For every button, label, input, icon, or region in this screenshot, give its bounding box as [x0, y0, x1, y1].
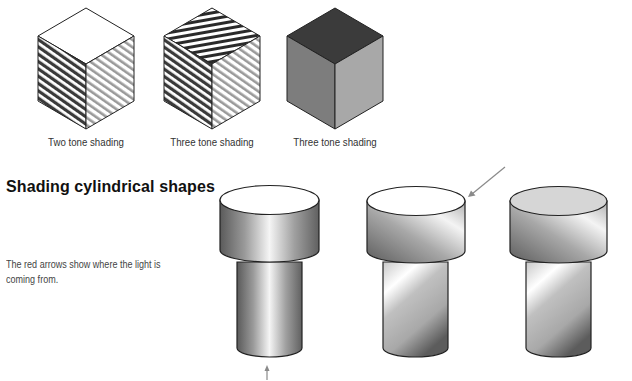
cube-three-tone-solid	[287, 8, 383, 129]
caption-three-tone-hatched: Three tone shading	[150, 136, 273, 148]
section-description: The red arrows show where the light is c…	[6, 257, 178, 287]
caption-two-tone: Two tone shading	[24, 136, 147, 148]
cylinder-top-right-light	[367, 187, 465, 358]
cylinder-shaft	[383, 262, 448, 357]
section-heading: Shading cylindrical shapes	[6, 178, 215, 196]
cube-three-tone-hatched	[164, 8, 260, 129]
cylinder-cap-top	[510, 187, 607, 216]
cylinder-shaft	[526, 262, 591, 357]
cylinder-cap-top	[220, 186, 319, 215]
cylinder-cap-top	[367, 187, 465, 216]
cylinder-top-right-grey-top	[510, 187, 607, 358]
cube-two-tone	[38, 8, 134, 129]
cylinder-front-light	[220, 186, 319, 358]
light-arrow-bottom	[265, 365, 270, 380]
caption-three-tone-solid: Three tone shading	[273, 136, 396, 148]
cylinder-shaft	[237, 262, 302, 357]
light-arrow-top-right	[468, 167, 505, 197]
